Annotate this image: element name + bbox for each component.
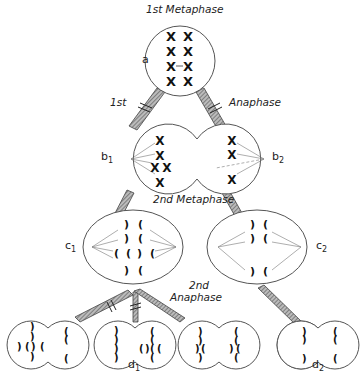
svg-text:X: X bbox=[183, 74, 193, 89]
svg-text:): ) bbox=[229, 343, 234, 354]
label-second: 2nd bbox=[189, 279, 209, 291]
svg-text:X: X bbox=[183, 59, 193, 74]
svg-text:(: ( bbox=[333, 353, 338, 364]
svg-text:X: X bbox=[227, 134, 237, 148]
svg-text:(: ( bbox=[139, 343, 144, 354]
svg-text:X: X bbox=[183, 29, 193, 44]
cell-label-c2: c2 bbox=[316, 239, 327, 254]
svg-text:): ) bbox=[250, 232, 255, 245]
svg-text:(: ( bbox=[263, 232, 268, 245]
svg-text:(: ( bbox=[333, 334, 338, 345]
svg-text:(: ( bbox=[64, 334, 69, 345]
svg-text:): ) bbox=[17, 341, 22, 352]
cell-label-b2: b2 bbox=[272, 150, 284, 165]
svg-text:X: X bbox=[183, 44, 193, 59]
svg-text:X: X bbox=[166, 74, 176, 89]
cell-label-b2-sub: 2 bbox=[279, 156, 284, 165]
cell-c1: )( )( (()( )( bbox=[83, 210, 183, 284]
cell-label-c1-sub: 1 bbox=[71, 245, 76, 254]
svg-text:(: ( bbox=[234, 352, 239, 363]
cell-label-c1: c1 bbox=[65, 239, 76, 254]
svg-text:): ) bbox=[302, 353, 307, 364]
svg-text:X: X bbox=[166, 44, 176, 59]
svg-text:(: ( bbox=[138, 264, 143, 277]
cell-label-d1-sub: 1 bbox=[135, 364, 140, 373]
cell-label-c2-sub: 2 bbox=[322, 245, 327, 254]
svg-text:(: ( bbox=[263, 218, 268, 231]
svg-text:(: ( bbox=[150, 352, 155, 363]
label-first-metaphase: 1st Metaphase bbox=[146, 3, 223, 15]
cell-label-d2-text: d bbox=[312, 358, 319, 371]
svg-text:): ) bbox=[124, 218, 129, 231]
svg-text:): ) bbox=[198, 352, 203, 363]
svg-text:): ) bbox=[145, 343, 150, 354]
svg-text:(: ( bbox=[138, 218, 143, 231]
svg-text:X: X bbox=[155, 134, 165, 148]
cell-c2: )( )( )( bbox=[207, 210, 307, 284]
svg-text:X: X bbox=[227, 173, 237, 187]
cell-label-d2: d2 bbox=[312, 358, 324, 373]
svg-text:): ) bbox=[250, 218, 255, 231]
svg-text:): ) bbox=[124, 232, 129, 245]
cell-label-d1: d1 bbox=[128, 358, 140, 373]
svg-text:X: X bbox=[166, 59, 176, 74]
svg-text:X: X bbox=[162, 161, 172, 175]
svg-text:(: ( bbox=[138, 232, 143, 245]
svg-text:): ) bbox=[250, 265, 255, 278]
cell-label-b2-text: b bbox=[272, 150, 279, 163]
svg-text:X: X bbox=[166, 29, 176, 44]
svg-text:(: ( bbox=[157, 343, 162, 354]
cell-label-d2-sub: 2 bbox=[319, 364, 324, 373]
svg-text:(: ( bbox=[25, 341, 30, 352]
svg-text:): ) bbox=[30, 351, 35, 362]
label-second-anaphase: Anaphase bbox=[170, 291, 222, 303]
svg-text:): ) bbox=[137, 247, 142, 260]
svg-text:(: ( bbox=[114, 247, 119, 260]
svg-text:(: ( bbox=[126, 247, 131, 260]
cell-label-a-text: a bbox=[142, 53, 149, 66]
cell-label-b1: b1 bbox=[101, 150, 113, 165]
svg-text:(: ( bbox=[263, 265, 268, 278]
svg-text:(: ( bbox=[40, 341, 45, 352]
cell-label-b1-text: b bbox=[101, 150, 108, 163]
svg-text:X: X bbox=[150, 161, 160, 175]
cell-a: XX XX XX XX bbox=[145, 26, 215, 96]
svg-text:(: ( bbox=[64, 353, 69, 364]
svg-text:): ) bbox=[302, 334, 307, 345]
cell-label-b1-sub: 1 bbox=[108, 156, 113, 165]
svg-text:(: ( bbox=[150, 247, 155, 260]
svg-text:X: X bbox=[155, 176, 165, 190]
label-anaphase: Anaphase bbox=[229, 96, 281, 108]
label-second-metaphase: 2nd Metaphase bbox=[153, 193, 234, 205]
svg-text:X: X bbox=[227, 148, 237, 162]
cell-b: XX XX X XX X bbox=[131, 124, 264, 194]
meiosis-diagram: XX XX XX XX XX XX X XX X bbox=[0, 0, 361, 376]
cell-label-d1-text: d bbox=[128, 358, 135, 371]
svg-text:): ) bbox=[124, 264, 129, 277]
svg-text:): ) bbox=[114, 352, 119, 363]
label-first: 1st bbox=[110, 96, 126, 108]
cell-label-a: a bbox=[142, 53, 149, 66]
